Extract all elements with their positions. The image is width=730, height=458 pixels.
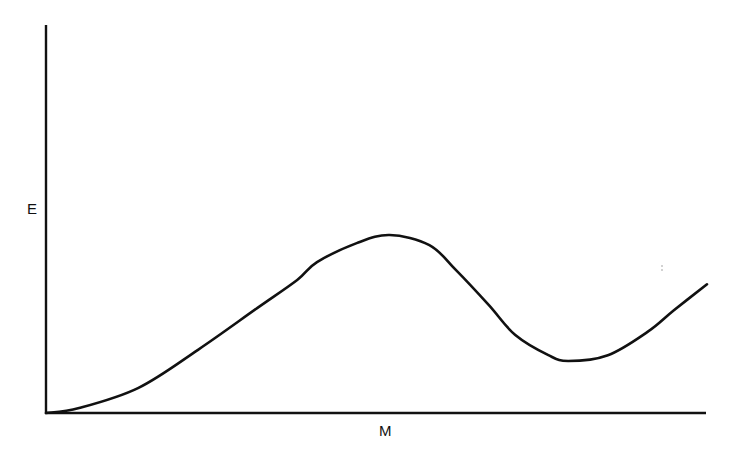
speck-mark <box>661 265 663 267</box>
line-chart <box>0 0 730 458</box>
speck-mark <box>661 269 663 271</box>
y-axis-label: E <box>27 200 37 217</box>
x-axis-label: M <box>379 422 392 439</box>
energy-curve <box>46 235 707 413</box>
